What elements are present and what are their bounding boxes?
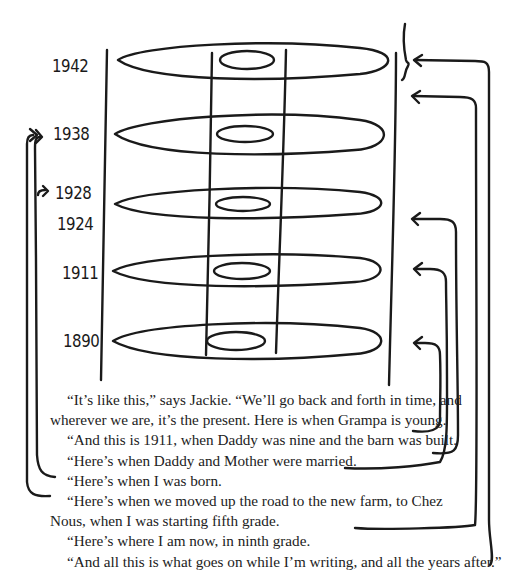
disk-top [118,43,388,79]
brace-icon [402,24,409,80]
inner-disk-1890 [207,332,265,350]
disk-1911 [113,254,380,286]
inner-disk-1924 [216,197,270,211]
inner-shaft-left [206,53,212,355]
year-label-1938: 1938 [53,124,89,144]
paragraph: “And all this is what goes on while I’m … [50,552,470,572]
paragraph: “Here’s when I was born. [50,471,470,491]
paragraph: “Here’s when Daddy and Mother were marri… [50,451,470,471]
year-label-1928: 1928 [55,183,91,203]
paragraph-line: “Here’s when we moved up the road to the… [50,491,470,511]
cylinder-right-edge [389,53,396,385]
paragraph: “And this is 1911, when Daddy was nine a… [50,430,470,450]
paragraph-line: Nous, when I was starting fifth grade. [50,511,470,531]
cylinder-left-edge [101,50,107,380]
year-label-1942: 1942 [52,56,88,76]
inner-disk-1911 [214,263,270,279]
paragraph-line: wherever we are, it’s the present. Here … [50,410,470,430]
year-label-1924: 1924 [57,214,93,234]
inner-shaft-right [276,50,286,353]
paragraph-line: “It’s like this,” says Jackie. “We’ll go… [50,390,470,410]
inner-disk-top [220,51,274,69]
year-label-1911: 1911 [62,263,98,283]
year-label-1890: 1890 [63,331,99,351]
inner-disk-1938 [217,126,273,142]
disk-1890 [113,323,381,359]
story-text: “It’s like this,” says Jackie. “We’ll go… [50,390,470,572]
disk-1924 [115,188,381,218]
paragraph: “Here’s where I am now, in ninth grade. [50,531,470,551]
disk-1938 [115,115,384,155]
